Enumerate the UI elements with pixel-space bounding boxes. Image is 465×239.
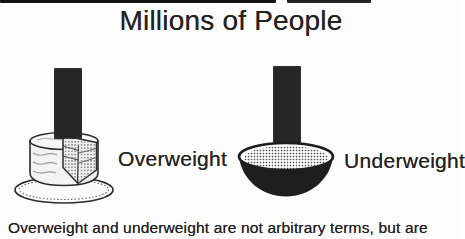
underweight-label: Underweight	[344, 149, 465, 173]
overweight-bar	[54, 68, 82, 139]
scan-artifact-bar-left	[0, 0, 276, 3]
figure-title: Millions of People	[0, 6, 462, 36]
bowl-contents-texture	[244, 146, 328, 170]
underweight-bar	[273, 66, 301, 144]
overweight-label: Overweight	[118, 147, 227, 171]
caption-text: Overweight and underweight are not arbit…	[8, 219, 458, 237]
scan-artifact-bar-right	[287, 0, 371, 3]
